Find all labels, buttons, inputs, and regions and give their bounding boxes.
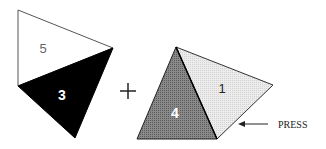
face-1-label: 1 — [218, 81, 225, 96]
arrow-left-icon — [238, 121, 245, 127]
face-4-label: 4 — [171, 105, 179, 121]
press-label: PRESS — [278, 119, 307, 130]
press-annotation: PRESS — [238, 119, 307, 130]
folding-diagram: 5 3 1 4 PRESS — [0, 0, 326, 149]
left-shape: 5 3 — [18, 10, 113, 138]
right-shape: 1 4 — [137, 47, 273, 139]
plus-icon — [120, 83, 136, 99]
face-3-label: 3 — [58, 87, 66, 103]
face-5-label: 5 — [39, 41, 46, 56]
